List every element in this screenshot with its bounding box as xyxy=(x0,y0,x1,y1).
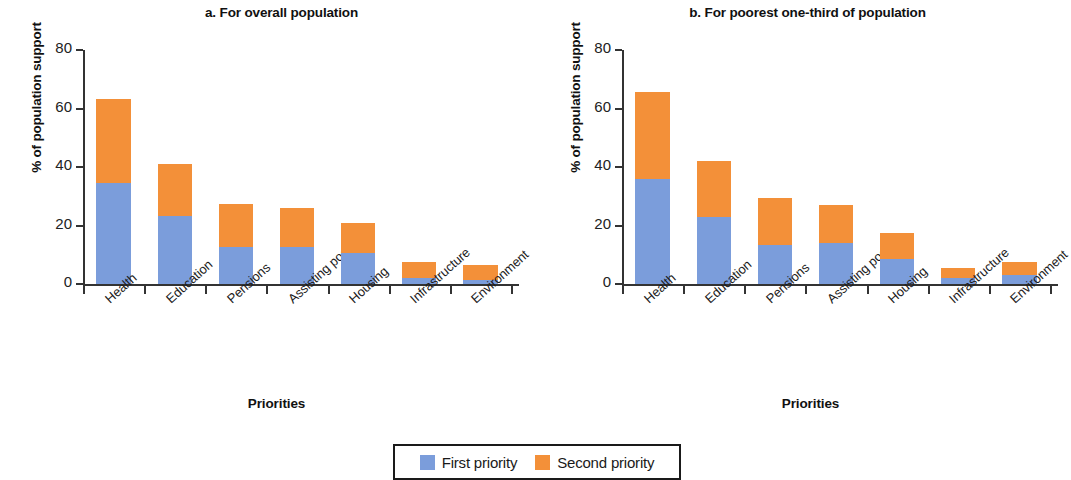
bar-segment-second-priority xyxy=(158,164,192,216)
bar-education xyxy=(158,164,192,285)
x-tick-2 xyxy=(744,286,746,294)
bar-segment-second-priority xyxy=(219,204,253,247)
panel-a-y-axis-line xyxy=(83,50,85,286)
panel-a-y-axis-label: % of population support xyxy=(29,0,44,208)
y-tick-80: 80 xyxy=(76,49,83,51)
y-tick-40: 40 xyxy=(615,166,622,168)
y-tick-label-80: 80 xyxy=(55,39,72,56)
bar-health xyxy=(635,92,669,284)
legend-entry-second-priority: Second priority xyxy=(535,454,654,471)
y-tick-label-20: 20 xyxy=(55,215,72,232)
y-tick-label-40: 40 xyxy=(594,156,611,173)
x-tick-5 xyxy=(928,286,930,294)
y-tick-20: 20 xyxy=(615,225,622,227)
x-tick-1 xyxy=(144,286,146,294)
y-tick-label-60: 60 xyxy=(55,98,72,115)
chart-panel-a: a. For overall population % of populatio… xyxy=(0,0,533,430)
chart-legend: First priority Second priority xyxy=(393,444,681,480)
y-tick-label-0: 0 xyxy=(603,273,611,290)
y-tick-label-80: 80 xyxy=(594,39,611,56)
x-tick-6 xyxy=(989,286,991,294)
bar-segment-second-priority xyxy=(880,233,914,259)
y-tick-60: 60 xyxy=(76,108,83,110)
y-tick-label-0: 0 xyxy=(64,273,72,290)
y-tick-20: 20 xyxy=(76,225,83,227)
bar-pensions xyxy=(758,198,792,284)
bar-segment-first-priority xyxy=(635,179,669,284)
y-tick-40: 40 xyxy=(76,166,83,168)
x-tick-5 xyxy=(389,286,391,294)
panel-a-title: a. For overall population xyxy=(0,5,533,20)
x-tick-2 xyxy=(205,286,207,294)
panel-a-plot-area: 020406080HealthEducationPensionsAssistin… xyxy=(83,50,511,286)
bar-health xyxy=(96,99,130,284)
y-tick-label-40: 40 xyxy=(55,156,72,173)
bar-segment-second-priority xyxy=(758,198,792,245)
y-tick-label-60: 60 xyxy=(594,98,611,115)
panel-b-plot-area: 020406080HealthEducationPensionsAssistin… xyxy=(622,50,1050,286)
x-tick-4 xyxy=(867,286,869,294)
bar-segment-second-priority xyxy=(635,92,669,178)
x-tick-4 xyxy=(328,286,330,294)
bar-segment-first-priority xyxy=(96,183,130,284)
y-tick-60: 60 xyxy=(615,108,622,110)
x-tick-3 xyxy=(266,286,268,294)
panel-b-title: b. For poorest one-third of population xyxy=(527,5,1060,20)
bar-segment-second-priority xyxy=(697,161,731,217)
legend-label-second-priority: Second priority xyxy=(557,454,654,471)
x-tick-7 xyxy=(511,286,513,294)
bar-segment-second-priority xyxy=(96,99,130,183)
bar-segment-second-priority xyxy=(280,208,314,247)
x-tick-6 xyxy=(450,286,452,294)
legend-entry-first-priority: First priority xyxy=(420,454,518,471)
x-tick-3 xyxy=(805,286,807,294)
orange-square-swatch xyxy=(535,455,550,470)
x-tick-7 xyxy=(1050,286,1052,294)
bar-education xyxy=(697,161,731,284)
bar-segment-second-priority xyxy=(341,223,375,254)
panel-a-x-axis-label: Priorities xyxy=(0,396,533,411)
blue-square-swatch xyxy=(420,455,435,470)
panel-b-y-axis-label: % of population support xyxy=(568,0,583,208)
x-tick-0 xyxy=(622,286,624,294)
legend-label-first-priority: First priority xyxy=(442,454,518,471)
y-tick-0: 0 xyxy=(615,283,622,285)
y-tick-0: 0 xyxy=(76,283,83,285)
panel-b-y-axis-line xyxy=(622,50,624,286)
y-tick-80: 80 xyxy=(615,49,622,51)
bar-segment-second-priority xyxy=(819,205,853,243)
panel-b-x-axis-label: Priorities xyxy=(527,396,1060,411)
y-tick-label-20: 20 xyxy=(594,215,611,232)
x-tick-1 xyxy=(683,286,685,294)
x-tick-0 xyxy=(83,286,85,294)
chart-panel-b: b. For poorest one-third of population %… xyxy=(527,0,1060,430)
